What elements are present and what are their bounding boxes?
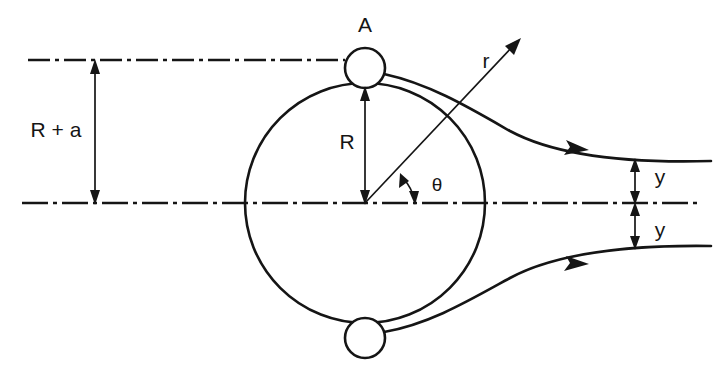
dimension-R-plus-a-arrowhead-bottom: [90, 190, 100, 205]
label-radial-distance-r: r: [483, 49, 490, 72]
label-point-a: A: [358, 13, 372, 36]
label-offset-total: R + a: [31, 118, 82, 141]
source-circle-a: [345, 48, 385, 88]
label-angle-theta: θ: [432, 174, 443, 195]
source-circle-lower: [345, 318, 385, 358]
upper-streamline-curve: [384, 74, 711, 161]
label-cylinder-radius-R: R: [339, 130, 354, 153]
dimension-R-plus-a-arrowhead-top: [90, 59, 100, 74]
label-stream-offset-lower: y: [655, 218, 666, 241]
diagram-canvas: A r R R + a θ y y: [0, 0, 726, 392]
lower-streamline-curve: [384, 246, 711, 332]
label-stream-offset-upper: y: [655, 165, 666, 188]
flow-past-cylinder-diagram: A r R R + a θ y y: [0, 0, 726, 392]
angle-theta-arrowhead-upper: [399, 173, 409, 188]
lower-streamline-arrowhead: [564, 256, 589, 271]
